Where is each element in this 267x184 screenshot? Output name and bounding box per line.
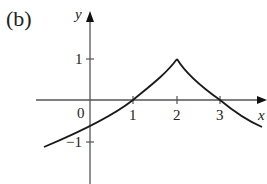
- x-tick-label-3: 3: [216, 107, 224, 123]
- origin-label: 0: [77, 105, 85, 121]
- curve-left-branch: [44, 59, 177, 147]
- y-axis-arrow-icon: [86, 11, 94, 22]
- x-tick-label-2: 2: [173, 107, 181, 123]
- y-axis-label: y: [73, 6, 82, 22]
- graph: (b) 1 2 3 1 −1 0 y x: [0, 0, 267, 184]
- x-axis-arrow-icon: [257, 96, 267, 104]
- panel-label: (b): [6, 6, 32, 31]
- x-axis-label: x: [257, 107, 265, 123]
- x-tick-label-1: 1: [129, 107, 137, 123]
- y-tick-label-1: 1: [75, 51, 83, 67]
